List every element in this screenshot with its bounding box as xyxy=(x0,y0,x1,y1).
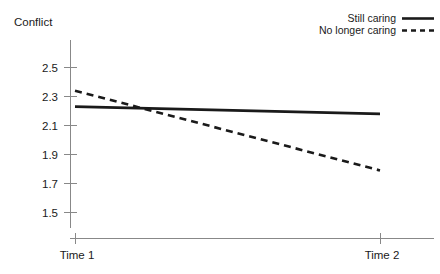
series-no-longer-caring xyxy=(75,91,380,171)
y-tick-label: 1.5 xyxy=(42,207,58,219)
y-tick-labels: 1.5 1.7 1.9 2.1 2.3 2.5 xyxy=(42,62,58,219)
y-tick-label: 1.7 xyxy=(42,178,58,190)
legend-label-no-longer-caring: No longer caring xyxy=(319,24,396,36)
x-tick-label: Time 1 xyxy=(60,249,95,261)
x-tick-label: Time 2 xyxy=(365,249,400,261)
series-still-caring xyxy=(75,107,380,114)
x-tick-labels: Time 1 Time 2 xyxy=(60,249,400,261)
legend-label-still-caring: Still caring xyxy=(348,12,397,24)
y-tick-label: 2.3 xyxy=(42,91,58,103)
y-tick-label: 1.9 xyxy=(42,149,58,161)
line-chart: Conflict 1.5 1.7 1.9 2.1 2.3 2.5 xyxy=(0,0,440,274)
chart-screenshot: Conflict 1.5 1.7 1.9 2.1 2.3 2.5 xyxy=(0,0,440,274)
y-tick-label: 2.5 xyxy=(42,62,58,74)
y-tick-label: 2.1 xyxy=(42,120,58,132)
y-axis-title: Conflict xyxy=(14,16,53,28)
chart-legend: Still caring No longer caring xyxy=(319,12,434,36)
